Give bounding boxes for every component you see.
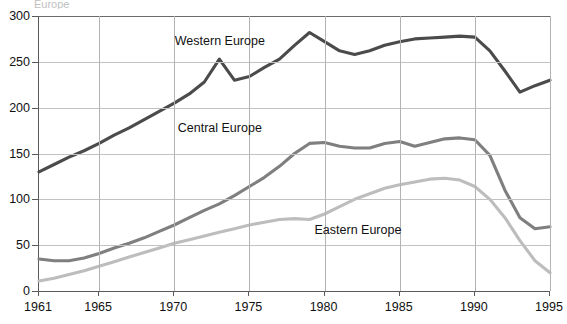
y-tick-label: 250	[0, 56, 30, 68]
x-tick-mark	[98, 291, 99, 296]
y-tick-label: 50	[0, 239, 30, 251]
gridline-vertical	[249, 16, 250, 291]
gridline-horizontal	[39, 108, 550, 109]
cropped-chart-title: Europe	[34, 0, 264, 9]
x-tick-label: 1961	[16, 301, 60, 314]
series-line	[39, 178, 550, 281]
x-tick-label: 1970	[151, 301, 195, 314]
y-tick-label: 100	[0, 193, 30, 205]
gridline-vertical	[475, 16, 476, 291]
gridline-horizontal	[39, 154, 550, 155]
series-line	[39, 33, 550, 172]
y-axis: 050100150200250300	[0, 0, 38, 324]
x-tick-mark	[399, 291, 400, 296]
x-tick-label: 1980	[302, 301, 346, 314]
x-tick-mark	[549, 291, 550, 296]
x-tick-mark	[248, 291, 249, 296]
x-tick-label: 1965	[76, 301, 120, 314]
plot-area	[38, 16, 550, 292]
gridline-vertical	[400, 16, 401, 291]
x-tick-mark	[173, 291, 174, 296]
x-tick-label: 1985	[377, 301, 421, 314]
y-tick-label: 150	[0, 148, 30, 160]
gridline-horizontal	[39, 245, 550, 246]
x-tick-label: 1990	[452, 301, 496, 314]
x-tick-label: 1975	[226, 301, 270, 314]
gridline-horizontal	[39, 62, 550, 63]
y-tick-label: 300	[0, 10, 30, 22]
x-axis: 19611965197019751980198519901995	[0, 291, 558, 324]
gridline-vertical	[174, 16, 175, 291]
series-label-western-europe: Western Europe	[175, 35, 265, 48]
x-tick-label: 1995	[527, 301, 567, 314]
gridline-horizontal	[39, 199, 550, 200]
y-tick-label: 200	[0, 102, 30, 114]
gridline-vertical	[325, 16, 326, 291]
gridline-vertical	[550, 16, 551, 291]
series-label-eastern-europe: Eastern Europe	[315, 224, 402, 237]
x-tick-mark	[474, 291, 475, 296]
gridline-vertical	[99, 16, 100, 291]
x-tick-mark	[38, 291, 39, 296]
series-label-central-europe: Central Europe	[178, 122, 262, 135]
x-tick-mark	[324, 291, 325, 296]
